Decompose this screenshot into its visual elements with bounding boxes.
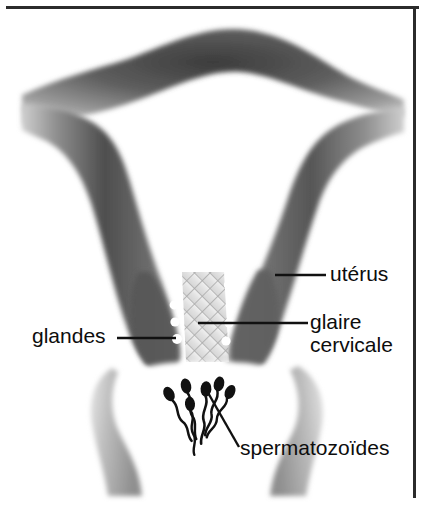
frame-border-right [413,6,416,498]
gland-dot [224,281,232,289]
label-glandes: glandes [32,324,106,347]
frame-border-top [6,6,419,9]
gland-dot [226,301,235,310]
anatomy-figure: utérus glairecervicale glandes spermatoz… [0,0,425,505]
label-glaire-line2: cervicale [310,333,393,356]
label-glaire-line1: glaire [310,310,361,333]
label-spermatozoides: spermatozoïdes [240,436,389,459]
gland-dot [170,301,179,310]
gland-dot [172,283,180,291]
gland-dot [170,317,179,326]
label-glaire-cervicale: glairecervicale [310,310,393,356]
label-uterus: utérus [330,262,388,285]
gland-dot [221,336,230,345]
anatomy-illustration [0,0,425,505]
